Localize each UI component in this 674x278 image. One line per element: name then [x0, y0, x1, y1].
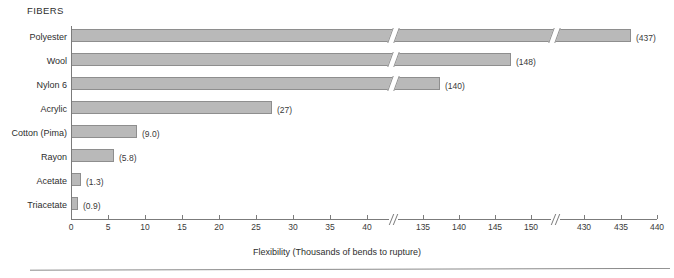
category-label-text: Acetate — [1, 176, 67, 186]
y-axis-line — [71, 26, 72, 219]
x-tick-label-20: 20 — [214, 222, 223, 232]
x-tick-40 — [367, 215, 368, 219]
value-label-nylon-6: (140) — [445, 81, 465, 91]
bar-acrylic — [71, 101, 272, 114]
x-tick-label-430: 430 — [577, 222, 591, 232]
x-axis-break-1 — [389, 214, 398, 225]
chart-title: FIBERS — [27, 5, 64, 16]
category-label-text: Cotton (Pima) — [1, 128, 67, 138]
value-label-acrylic: (27) — [277, 105, 292, 115]
x-tick-135 — [423, 215, 424, 219]
category-label-text: Triacetate — [1, 200, 67, 210]
bar-triacetate — [71, 197, 78, 210]
value-label-triacetate: (0.9) — [83, 201, 100, 211]
value-label-wool: (148) — [516, 57, 536, 67]
x-tick-140 — [459, 215, 460, 219]
x-tick-435 — [621, 215, 622, 219]
bar-cotton-pima — [71, 125, 137, 138]
value-label-acetate: (1.3) — [86, 177, 103, 187]
x-tick-label-150: 150 — [524, 222, 538, 232]
x-tick-label-10: 10 — [140, 222, 149, 232]
x-axis-line — [71, 219, 657, 220]
x-tick-430 — [584, 215, 585, 219]
x-tick-label-40: 40 — [362, 222, 371, 232]
x-tick-145 — [495, 215, 496, 219]
bar-wool — [71, 53, 511, 66]
x-tick-30 — [293, 215, 294, 219]
x-tick-label-145: 145 — [488, 222, 502, 232]
x-tick-25 — [256, 215, 257, 219]
value-label-cotton-pima: (9.0) — [142, 129, 159, 139]
x-tick-15 — [182, 215, 183, 219]
x-tick-10 — [145, 215, 146, 219]
x-axis-break-2 — [551, 214, 560, 225]
value-label-rayon: (5.8) — [119, 153, 136, 163]
x-tick-35 — [330, 215, 331, 219]
fibers-flexibility-chart: FIBERS Polyester Wool Nylon 6 Acrylic Co… — [0, 0, 674, 278]
x-tick-440 — [657, 215, 658, 219]
category-label-text: Polyester — [1, 32, 67, 42]
x-tick-label-435: 435 — [614, 222, 628, 232]
category-label-text: Wool — [1, 56, 67, 66]
bar-nylon-6 — [71, 77, 440, 90]
bar-rayon — [71, 149, 114, 162]
x-tick-label-15: 15 — [177, 222, 186, 232]
bar-acetate — [71, 173, 81, 186]
x-tick-5 — [108, 215, 109, 219]
bottom-divider — [30, 268, 670, 271]
x-tick-label-135: 135 — [416, 222, 430, 232]
category-label-text: Acrylic — [1, 104, 67, 114]
x-tick-label-35: 35 — [325, 222, 334, 232]
x-tick-label-30: 30 — [288, 222, 297, 232]
x-tick-150 — [531, 215, 532, 219]
category-label-text: Rayon — [1, 152, 67, 162]
x-axis-title: Flexibility (Thousands of bends to ruptu… — [253, 247, 421, 257]
x-tick-label-440: 440 — [650, 222, 664, 232]
category-label-text: Nylon 6 — [1, 80, 67, 90]
bar-polyester — [71, 29, 631, 42]
x-tick-label-5: 5 — [106, 222, 111, 232]
x-tick-label-25: 25 — [251, 222, 260, 232]
x-tick-label-140: 140 — [452, 222, 466, 232]
value-label-polyester: (437) — [636, 33, 656, 43]
x-tick-0 — [71, 215, 72, 219]
x-tick-label-0: 0 — [69, 222, 74, 232]
x-tick-20 — [219, 215, 220, 219]
